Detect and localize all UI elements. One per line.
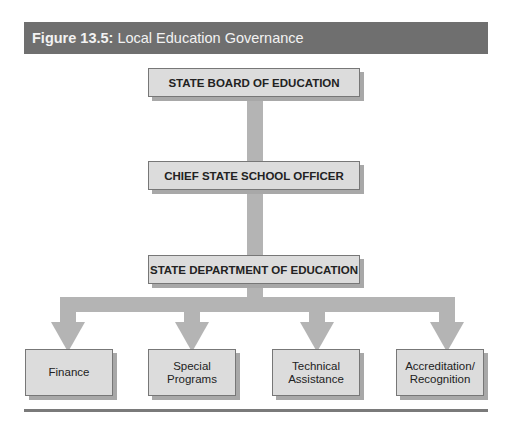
branch-connector <box>60 297 455 312</box>
box-label-line1: Accreditation/ <box>405 360 475 373</box>
box-accreditation-recognition: Accreditation/Recognition <box>396 349 484 396</box>
box-state-department: STATE DEPARTMENT OF EDUCATION <box>148 255 360 284</box>
box-label: STATE BOARD OF EDUCATION <box>168 77 339 89</box>
figure-title: Local Education Governance <box>117 30 303 46</box>
connector-chief-dept <box>247 189 263 256</box>
box-label-line1: Finance <box>49 366 90 379</box>
figure-label: Figure 13.5: <box>32 30 113 46</box>
box-state-board: STATE BOARD OF EDUCATION <box>148 68 360 97</box>
box-label-line2: Assistance <box>288 373 344 386</box>
box-label-line2: Programs <box>167 373 217 386</box>
bottom-rule <box>24 409 488 412</box>
box-label-line1: Technical <box>288 360 344 373</box>
arrow-down-icon <box>300 322 334 352</box>
box-technical-assistance: TechnicalAssistance <box>272 349 360 396</box>
arrow-down-icon <box>51 322 85 352</box>
drop-accreditation <box>439 297 455 325</box>
box-label-line1: Special <box>167 360 217 373</box>
box-label: CHIEF STATE SCHOOL OFFICER <box>164 170 344 182</box>
box-label: STATE DEPARTMENT OF EDUCATION <box>150 264 358 276</box>
connector-board-chief <box>247 96 263 162</box>
box-label-line2: Recognition <box>405 373 475 386</box>
arrow-down-icon <box>430 322 464 352</box>
drop-finance <box>60 297 76 325</box>
drop-technical <box>309 297 325 325</box>
box-finance: Finance <box>25 349 113 396</box>
drop-special <box>184 297 200 325</box>
box-chief-officer: CHIEF STATE SCHOOL OFFICER <box>148 161 360 190</box>
box-special-programs: SpecialPrograms <box>148 349 236 396</box>
arrow-down-icon <box>175 322 209 352</box>
figure-caption-bar: Figure 13.5: Local Education Governance <box>24 22 488 54</box>
